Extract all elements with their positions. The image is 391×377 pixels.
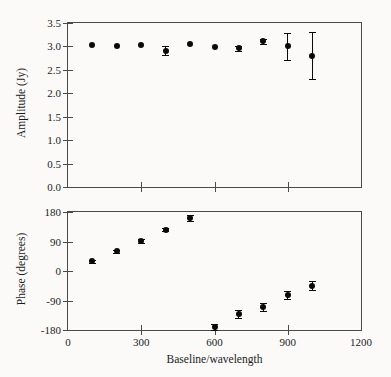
- amplitude-error-cap: [162, 46, 169, 47]
- phase-y-tick: [63, 330, 73, 331]
- phase-x-tick-label: 1200: [350, 336, 372, 348]
- amplitude-y-tick-label: 3.5: [47, 17, 61, 29]
- amplitude-x-tick: [141, 182, 142, 192]
- phase-error-cap: [211, 330, 218, 331]
- phase-y-tick-label: -90: [46, 295, 61, 307]
- phase-y-tick: [63, 212, 73, 213]
- amplitude-error-cap: [162, 55, 169, 56]
- phase-data-point: [236, 311, 242, 317]
- phase-error-cap: [235, 318, 242, 319]
- amplitude-data-point: [212, 44, 218, 50]
- phase-data-point: [309, 283, 315, 289]
- phase-x-tick-label: 0: [65, 336, 71, 348]
- phase-y-tick-label: -180: [41, 324, 61, 336]
- amplitude-y-tick-label: 2.0: [47, 87, 61, 99]
- amplitude-y-tick: [63, 93, 73, 94]
- amplitude-y-axis-title: Amplitude (Jy): [15, 53, 27, 153]
- amplitude-data-point: [89, 42, 95, 48]
- amplitude-y-tick: [63, 46, 73, 47]
- amplitude-error-cap: [309, 32, 316, 33]
- phase-panel: Phase (degrees) Baseline/wavelength -180…: [67, 211, 362, 331]
- phase-data-point: [285, 292, 291, 298]
- phase-x-tick: [288, 325, 289, 335]
- figure-container: Amplitude (Jy) 0.00.51.01.52.02.53.03.5 …: [0, 0, 391, 377]
- amplitude-y-tick: [63, 117, 73, 118]
- phase-y-tick-label: 90: [50, 236, 61, 248]
- phase-error-cap: [187, 221, 194, 222]
- amplitude-y-tick-label: 3.0: [47, 40, 61, 52]
- amplitude-y-tick: [63, 164, 73, 165]
- phase-data-point: [260, 304, 266, 310]
- phase-data-point: [163, 227, 169, 233]
- amplitude-panel: Amplitude (Jy) 0.00.51.01.52.02.53.03.5: [67, 22, 362, 188]
- phase-data-point: [187, 215, 193, 221]
- phase-error-cap: [284, 299, 291, 300]
- amplitude-error-cap: [284, 33, 291, 34]
- amplitude-y-tick-label: 2.5: [47, 64, 61, 76]
- amplitude-data-point: [163, 48, 169, 54]
- phase-x-tick: [141, 325, 142, 335]
- phase-data-point: [212, 324, 218, 330]
- amplitude-data-point: [285, 43, 291, 49]
- phase-y-tick-label: 180: [45, 206, 62, 218]
- amplitude-error-cap: [309, 79, 316, 80]
- amplitude-y-tick: [63, 23, 73, 24]
- phase-y-axis-title: Phase (degrees): [15, 214, 27, 324]
- phase-y-tick: [63, 271, 73, 272]
- amplitude-y-tick-label: 1.0: [47, 134, 61, 146]
- amplitude-y-tick-label: 0.5: [47, 158, 61, 170]
- phase-error-cap: [309, 281, 316, 282]
- phase-x-tick-label: 900: [280, 336, 297, 348]
- amplitude-data-point: [138, 42, 144, 48]
- phase-y-tick-label: 0: [56, 265, 62, 277]
- amplitude-y-tick: [63, 70, 73, 71]
- amplitude-x-tick: [288, 182, 289, 192]
- phase-x-tick-label: 600: [206, 336, 223, 348]
- amplitude-data-point: [309, 53, 315, 59]
- phase-y-tick: [63, 301, 73, 302]
- amplitude-y-tick-label: 1.5: [47, 111, 61, 123]
- phase-error-cap: [309, 290, 316, 291]
- amplitude-data-point: [114, 43, 120, 49]
- amplitude-y-tick: [63, 140, 73, 141]
- amplitude-data-point: [187, 41, 193, 47]
- phase-x-tick-label: 300: [133, 336, 150, 348]
- phase-y-tick: [63, 242, 73, 243]
- amplitude-y-tick: [63, 187, 73, 188]
- amplitude-plot-area: [68, 23, 361, 187]
- phase-plot-area: [68, 212, 361, 330]
- amplitude-error-cap: [284, 60, 291, 61]
- phase-error-cap: [260, 311, 267, 312]
- amplitude-y-tick-label: 0.0: [47, 181, 61, 193]
- amplitude-x-tick: [215, 182, 216, 192]
- phase-x-axis-title: Baseline/wavelength: [167, 353, 263, 365]
